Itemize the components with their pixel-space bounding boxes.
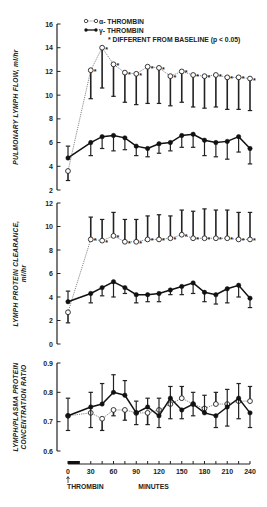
open-circle-marker [225,75,230,80]
open-circle-marker [111,234,116,239]
filled-circle-marker [111,280,115,284]
filled-circle-marker [157,414,161,418]
y-tick-label: 16 [45,21,53,28]
open-circle-icon [84,19,87,22]
x-tick-label: 0 [66,468,70,475]
significance-star: * [173,236,176,243]
thrombin-infusion-bar [68,461,79,464]
filled-circle-marker [236,283,240,287]
open-circle-marker [100,45,105,50]
open-circle-marker [191,236,196,241]
open-circle-marker [202,236,207,241]
y-tick-label: 0.8 [43,389,53,396]
significance-star: * [185,69,188,76]
filled-circle-marker [236,396,240,400]
panel-3: 0.90.80.70.6LYMPH/PLASMA PROTEINCONCENTR… [12,360,252,455]
open-circle-marker [134,239,139,244]
chart-figure: 161412108642PULMONARY LYMPH FLOW, ml/hr*… [0,0,267,507]
open-circle-marker [111,62,116,67]
y-tick-label: 2 [49,317,53,324]
filled-circle-marker [111,390,115,394]
filled-circle-marker [191,132,195,136]
open-circle-marker [122,239,127,244]
significance-star: * [117,234,120,241]
open-circle-marker [145,64,150,69]
series-alpha-thrombin: *************** [66,45,256,180]
filled-circle-marker [168,288,172,292]
filled-circle-marker [100,285,104,289]
open-circle-marker [100,416,105,421]
x-tick-label: 60 [110,468,118,475]
filled-circle-marker [225,287,229,291]
y-tick-label: 2 [49,187,53,194]
open-circle-marker [213,236,218,241]
x-axis-title: MINUTES [138,483,169,490]
open-circle-marker [134,71,139,76]
open-circle-marker [111,408,116,413]
open-circle-marker [236,75,241,80]
filled-circle-marker [180,284,184,288]
filled-circle-marker [191,281,195,285]
filled-circle-marker [89,140,93,144]
series-gamma-thrombin [66,375,252,431]
significance-star: * [151,237,154,244]
x-tick-label: 210 [221,468,233,475]
open-circle-marker [88,68,93,73]
filled-circle-marker [248,146,252,150]
filled-circle-marker [89,405,93,409]
filled-circle-marker [123,393,127,397]
x-tick-label: 180 [199,468,211,475]
open-circle-marker [179,232,184,237]
significance-star: * [230,75,233,82]
significance-star: * [94,237,97,244]
significance-star: * [162,66,165,73]
filled-circle-marker [100,402,104,406]
significance-star: * [173,74,176,81]
filled-circle-marker [66,300,70,304]
x-tick-label: 150 [176,468,188,475]
x-tick-label: 90 [132,468,140,475]
filled-circle-marker [66,156,70,160]
filled-circle-marker [123,285,127,289]
significance-star: * [196,236,199,243]
filled-circle-marker [191,402,195,406]
x-axis: 0306090120150180210240THROMBINMINUTES [66,461,256,490]
filled-circle-marker [111,133,115,137]
open-circle-marker [168,236,173,241]
open-circle-marker [88,237,93,242]
open-circle-marker [202,74,207,79]
open-circle-marker [191,73,196,78]
open-circle-marker [100,238,105,243]
significance-star: * [242,75,245,82]
series-gamma-thrombin [66,280,252,308]
filled-circle-marker [202,138,206,142]
open-circle-marker [157,65,162,70]
significance-star: * [219,236,222,243]
open-circle-marker [236,237,241,242]
significance-star: * [185,233,188,240]
filled-circle-marker [214,414,218,418]
filled-circle-marker [214,140,218,144]
filled-circle-marker [225,405,229,409]
filled-circle-marker [168,396,172,400]
filled-circle-marker [123,136,127,140]
open-circle-marker [145,237,150,242]
y-tick-label: 10 [45,92,53,99]
legend-significance-label: * DIFFERENT FROM BASELINE (p < 0.05) [108,36,240,44]
significance-star: * [128,71,131,78]
significance-star: * [253,77,256,84]
y-axis-title: PULMONARY LYMPH FLOW, ml/hr [12,49,20,164]
y-tick-label: 0.6 [43,448,53,455]
significance-star: * [117,62,120,69]
filled-circle-marker [134,144,138,148]
y-tick-label: 0.7 [43,418,53,425]
x-tick-label: 240 [244,468,256,475]
legend-alpha-label: α- THROMBIN [99,18,144,25]
open-circle-marker [168,74,173,79]
significance-star: * [242,237,245,244]
filled-circle-icon [84,28,87,31]
panel-1: 161412108642PULMONARY LYMPH FLOW, ml/hr*… [12,21,256,194]
open-circle-marker [248,76,253,81]
y-tick-label: 4 [49,163,53,170]
filled-circle-marker [180,408,184,412]
